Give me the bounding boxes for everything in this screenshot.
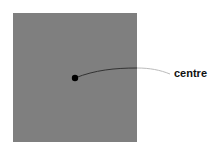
centre-label: centre xyxy=(174,66,207,80)
leader-line-outside xyxy=(137,68,170,74)
leader-line-inside xyxy=(75,68,137,78)
diagram: centre xyxy=(0,0,220,148)
centre-point xyxy=(72,75,78,81)
